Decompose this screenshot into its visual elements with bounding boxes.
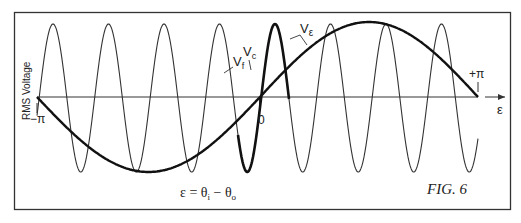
ve-leader bbox=[290, 35, 307, 45]
vc-label: Vc bbox=[243, 44, 257, 61]
tick-label-center: 0 bbox=[258, 113, 265, 127]
equation: ε = θi − θo bbox=[180, 185, 237, 202]
x-axis-label: ε bbox=[497, 102, 503, 117]
figure-canvas: Vf Vc Vε RMS Voltage −π 0 +π ε ε = θi − … bbox=[0, 0, 521, 223]
vc-leader bbox=[249, 60, 251, 70]
arrow-head-icon bbox=[498, 94, 505, 100]
figure-caption: FIG. 6 bbox=[426, 181, 467, 197]
ve-label: Vε bbox=[300, 21, 314, 38]
vf-leader bbox=[224, 67, 233, 73]
tick-label-left: −π bbox=[30, 112, 45, 126]
tick-label-right: +π bbox=[469, 67, 484, 81]
figure-frame bbox=[15, 13, 511, 210]
